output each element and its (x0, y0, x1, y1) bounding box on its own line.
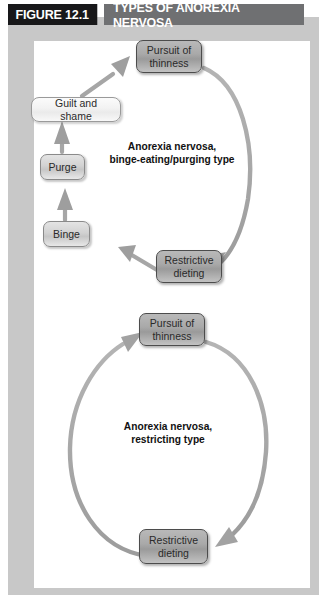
node-label: Pursuit of thinness (147, 44, 191, 69)
figure-header-bar: FIGURE 12.1 TYPES OF ANOREXIA NERVOSA (8, 4, 304, 25)
arrow-dieting-to-binge (118, 245, 157, 270)
figure-title: TYPES OF ANOREXIA NERVOSA (104, 4, 304, 25)
figure-title-text: TYPES OF ANOREXIA NERVOSA (113, 0, 283, 30)
node-label: Purge (48, 161, 76, 173)
caption-line-1: Anorexia nervosa, (92, 140, 252, 153)
node-pursuit-of-thinness[interactable]: Pursuit of thinness (136, 40, 202, 73)
figure-number-label: FIGURE 12.1 (8, 4, 97, 25)
node-restrictive-dieting[interactable]: Restrictive dieting (156, 250, 222, 283)
node-restrictive-dieting-lower[interactable]: Restrictive dieting (139, 529, 208, 564)
node-guilt-and-shame[interactable]: Guilt and shame (31, 97, 121, 122)
figure-root: FIGURE 12.1 TYPES OF ANOREXIA NERVOSA (0, 0, 327, 612)
node-label: Restrictive dieting (149, 534, 198, 559)
node-label: Restrictive dieting (164, 254, 213, 279)
caption-line-2: binge-eating/purging type (92, 153, 252, 166)
arrow-purge-to-guilt (54, 121, 70, 152)
node-label: Binge (53, 228, 80, 240)
node-label: Guilt and shame (38, 97, 114, 122)
node-label: Pursuit of thinness (150, 317, 194, 342)
arrow-thinness-to-dieting (204, 68, 250, 274)
caption-line-2: restricting type (88, 433, 248, 446)
caption-line-1: Anorexia nervosa, (88, 420, 248, 433)
caption-binge-eating-purging-type: Anorexia nervosa, binge-eating/purging t… (92, 140, 252, 167)
node-purge[interactable]: Purge (40, 154, 85, 180)
node-binge[interactable]: Binge (43, 221, 90, 247)
diagram-canvas: Pursuit of thinness Guilt and shame Purg… (26, 24, 302, 571)
arrow-binge-to-purge (57, 188, 73, 220)
node-pursuit-of-thinness-lower[interactable]: Pursuit of thinness (139, 313, 205, 346)
arrow-guilt-to-thinness (82, 56, 130, 96)
caption-restricting-type: Anorexia nervosa, restricting type (88, 420, 248, 447)
